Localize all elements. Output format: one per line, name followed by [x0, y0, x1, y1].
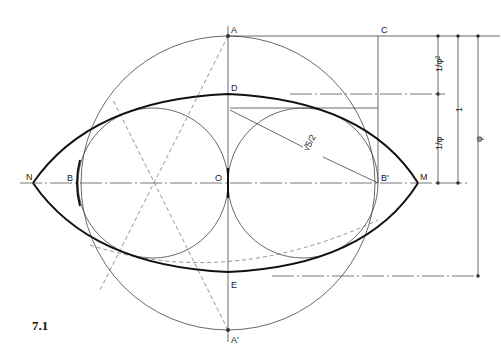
- dim-tick: [476, 34, 480, 38]
- label-b: B: [67, 173, 73, 183]
- dim-tick: [436, 92, 440, 96]
- dim-label-inv-phi-sq: 1/φ²: [434, 56, 444, 72]
- vesica-construction-diagram: A C D E A' O B B' N M √5/2 1/φ² 1/φ 1 φ …: [0, 0, 501, 362]
- label-d: D: [231, 83, 238, 93]
- label-c: C: [381, 25, 388, 35]
- point-a-dot: [226, 34, 230, 38]
- label-aprime: A': [231, 335, 239, 345]
- dim-label-inv-phi: 1/φ: [434, 136, 444, 150]
- dim-tick: [436, 34, 440, 38]
- lower-bold-arc: [33, 183, 418, 272]
- upper-bold-arc: [33, 94, 418, 183]
- label-a: A: [231, 25, 237, 35]
- label-n: N: [26, 172, 33, 182]
- dashed-line-1: [100, 36, 228, 290]
- radius-line-b: [323, 157, 378, 183]
- dim-label-phi: φ: [474, 136, 484, 142]
- figure-number: 7.1: [32, 318, 48, 333]
- label-o: O: [215, 173, 222, 183]
- dim-tick: [456, 181, 460, 185]
- label-e: E: [231, 280, 237, 290]
- dim-tick: [436, 181, 440, 185]
- dim-label-one: 1: [454, 107, 464, 112]
- dim-tick: [476, 274, 480, 278]
- label-m: M: [420, 172, 428, 182]
- radius-label: √5/2: [301, 133, 318, 153]
- dashed-line-2: [113, 100, 228, 330]
- dim-tick: [456, 34, 460, 38]
- point-aprime-dot: [226, 328, 230, 332]
- label-bprime: B': [381, 173, 389, 183]
